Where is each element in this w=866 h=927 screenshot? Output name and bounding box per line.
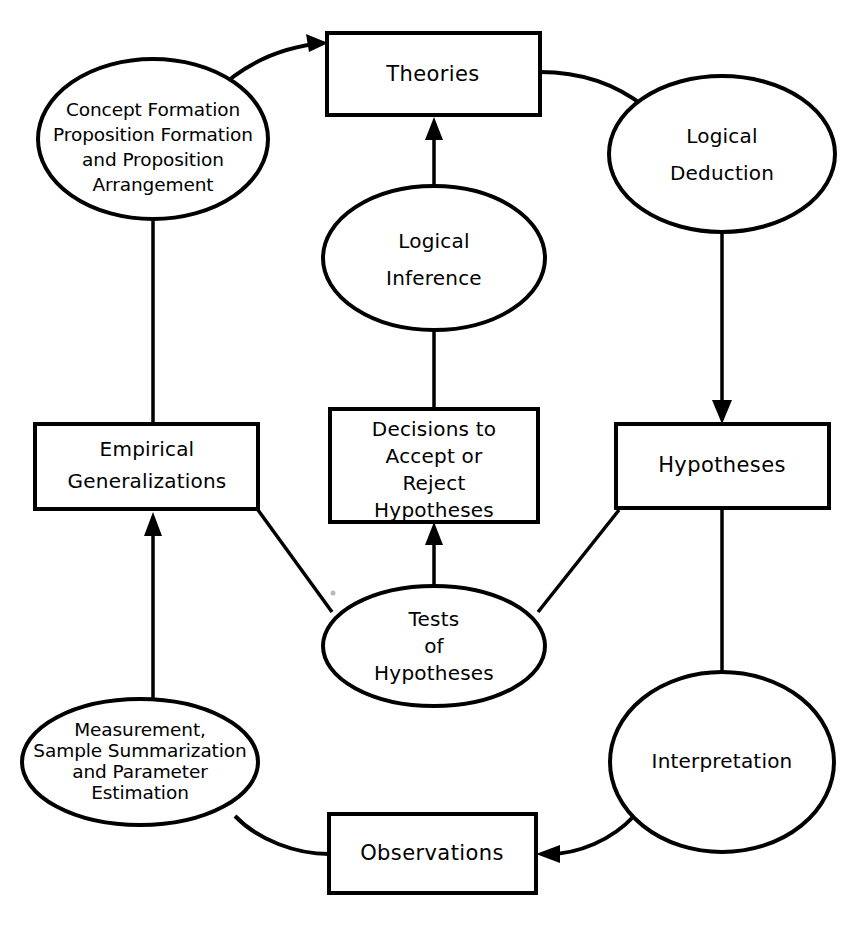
hypotheses-label: Hypotheses	[658, 453, 786, 477]
empirical-generalizations-line-2: Generalizations	[68, 469, 227, 493]
measurement-line-2: Sample Summarization	[33, 740, 246, 761]
node-hypotheses[interactable]: Hypotheses	[616, 424, 829, 508]
decisions-line-3: Reject	[402, 471, 465, 495]
measurement-line-3: and Parameter	[72, 761, 208, 782]
node-tests-of-hypotheses[interactable]: Tests of Hypotheses	[323, 586, 545, 706]
concept-formation-line-3: and Proposition	[82, 149, 224, 170]
arrow-into-theories	[306, 34, 328, 52]
tests-of-hypotheses-line-3: Hypotheses	[374, 661, 494, 685]
logical-inference-ellipse[interactable]	[323, 186, 545, 330]
node-interpretation[interactable]: Interpretation	[610, 672, 834, 852]
node-logical-inference[interactable]: Logical Inference	[323, 186, 545, 330]
theories-label: Theories	[385, 62, 479, 86]
science-wheel-diagram: Theories Concept Formation Proposition F…	[0, 0, 866, 927]
scan-speck	[331, 591, 336, 596]
edge-tests-to-hypotheses-box	[538, 510, 619, 612]
arrow-into-decisions	[425, 522, 443, 545]
logical-inference-line-2: Inference	[386, 266, 482, 290]
empirical-generalizations-line-1: Empirical	[100, 437, 195, 461]
concept-formation-line-4: Arrangement	[92, 174, 213, 195]
edge-theories-to-logical-deduction	[540, 72, 645, 107]
logical-deduction-line-1: Logical	[686, 124, 758, 148]
node-concept-formation[interactable]: Concept Formation Proposition Formation …	[38, 59, 268, 219]
decisions-line-4: Hypotheses	[374, 498, 494, 522]
edge-logical-deduction-to-hypotheses	[712, 212, 732, 424]
decisions-line-1: Decisions to	[372, 417, 496, 441]
flowchart-canvas: Theories Concept Formation Proposition F…	[0, 0, 866, 927]
node-theories[interactable]: Theories	[327, 33, 540, 115]
node-empirical-generalizations[interactable]: Empirical Generalizations	[35, 424, 258, 509]
arrow-into-empirical	[144, 512, 162, 536]
logical-inference-line-1: Logical	[398, 229, 470, 253]
logical-deduction-ellipse[interactable]	[609, 76, 835, 232]
measurement-line-1: Measurement,	[74, 719, 206, 740]
concept-formation-line-1: Concept Formation	[66, 99, 240, 120]
node-measurement[interactable]: Measurement, Sample Summarization and Pa…	[22, 699, 258, 825]
concept-formation-line-2: Proposition Formation	[53, 124, 253, 145]
logical-deduction-line-2: Deduction	[670, 161, 774, 185]
interpretation-label: Interpretation	[652, 749, 793, 773]
decisions-line-2: Accept or	[386, 444, 483, 468]
arrow-into-hypotheses	[712, 400, 732, 424]
arrow-into-observations	[536, 845, 560, 863]
tests-of-hypotheses-line-1: Tests	[408, 607, 460, 631]
tests-of-hypotheses-line-2: of	[424, 634, 444, 658]
edge-interpretation-to-observations	[536, 816, 634, 863]
edge-tests-to-empirical	[258, 510, 332, 612]
observations-label: Observations	[360, 841, 504, 865]
node-decisions[interactable]: Decisions to Accept or Reject Hypotheses	[330, 409, 538, 522]
node-logical-deduction[interactable]: Logical Deduction	[609, 76, 835, 232]
node-observations[interactable]: Observations	[329, 814, 536, 893]
measurement-line-4: Estimation	[91, 782, 189, 803]
edge-measurement-to-empirical	[144, 512, 162, 700]
edge-observations-to-measurement	[235, 816, 329, 854]
arrow-into-theories-bottom	[425, 117, 443, 140]
